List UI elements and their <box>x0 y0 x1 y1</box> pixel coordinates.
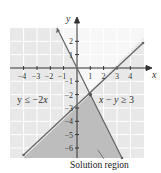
y-tick-label: −5 <box>64 131 73 140</box>
y-tick-label: −3 <box>64 104 73 113</box>
intersection-point <box>89 93 93 97</box>
line-endpoint-icon <box>142 42 145 45</box>
x-tick-label: 3 <box>115 72 119 81</box>
y-axis-label: y <box>65 13 71 24</box>
x-tick-label: −3 <box>32 72 41 81</box>
y-tick-label: −1 <box>64 77 73 86</box>
label-y-le-neg2x: y ≤ −2x <box>17 94 48 105</box>
line-endpoint-icon <box>22 154 25 157</box>
label-x-minus-y-ge-3: x − y ≥ 3 <box>98 94 134 105</box>
x-tick-label: 1 <box>88 72 92 81</box>
y-tick-label: −2 <box>64 91 73 100</box>
x-tick-label: −4 <box>18 72 27 81</box>
y-tick-label: 2 <box>69 37 73 46</box>
y-axis-arrow-icon <box>75 17 80 23</box>
x-tick-label: −2 <box>45 72 54 81</box>
x-axis-label: x <box>151 69 157 80</box>
x-tick-label: 4 <box>128 72 132 81</box>
y-tick-label: −4 <box>64 117 73 126</box>
line-endpoint-icon <box>121 157 124 160</box>
y-tick-label: 1 <box>69 51 73 60</box>
inequality-graph: −4 −3 −2 −1 1 2 3 4 2 1 −1 −2 −3 −4 −5 −… <box>0 0 161 173</box>
y-tick-label: −6 <box>64 144 73 153</box>
solution-region-caption: Solution region <box>70 160 129 170</box>
x-tick-label: 2 <box>102 72 106 81</box>
